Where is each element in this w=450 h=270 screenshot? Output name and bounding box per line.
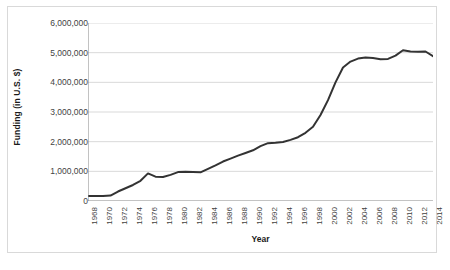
x-axis-tick-label: 1968 [91,207,99,225]
y-axis-tick-label: 5,000,000 [32,48,88,58]
x-axis-tick-label: 1986 [226,207,234,225]
x-axis-tick-label: 2014 [436,207,444,225]
x-axis-tick-label: 2006 [376,207,384,225]
x-axis-tick-label: 1990 [256,207,264,225]
x-axis-tick-label: 1978 [166,207,174,225]
x-axis-tick-label: 1972 [121,207,129,225]
x-axis-tick-labels: 1968197019721974197619781980198219841986… [88,201,433,235]
series-line-funding [88,50,433,196]
x-axis-tick-label: 1992 [271,207,279,225]
y-axis-tick-label: 0 [32,196,88,206]
x-axis-tick-label: 1970 [106,207,114,225]
x-axis-tick-label: 2010 [406,207,414,225]
y-axis-tick-label: 6,000,000 [32,18,88,28]
x-axis-tick-label: 2002 [346,207,354,225]
chart-figure: Funding (in U.S. $) 01,000,0002,000,0003… [7,6,437,253]
y-axis-tick-label: 1,000,000 [32,166,88,176]
y-axis-title: Funding (in U.S. $) [8,7,26,207]
y-axis-title-label: Funding (in U.S. $) [12,69,22,146]
y-axis-tick-label: 2,000,000 [32,137,88,147]
x-axis-tick-label: 1976 [151,207,159,225]
y-axis-tick-labels: 01,000,0002,000,0003,000,0004,000,0005,0… [26,7,88,227]
x-axis-tick-label: 1984 [211,207,219,225]
x-axis-tick-label: 1980 [181,207,189,225]
x-axis-tick-label: 1982 [196,207,204,225]
x-axis-tick-label: 1994 [286,207,294,225]
x-axis-tick-label: 1974 [136,207,144,225]
x-axis-tick-label: 2008 [391,207,399,225]
x-axis-title: Year [88,234,433,244]
x-axis-tick-label: 1998 [316,207,324,225]
y-axis-tick-label: 4,000,000 [32,77,88,87]
y-axis-tick-label: 3,000,000 [32,107,88,117]
gridlines [88,23,433,171]
line-chart-svg [88,23,433,201]
x-axis-tick-label: 1996 [301,207,309,225]
x-axis-tick-label: 2000 [331,207,339,225]
x-axis-tick-label: 1988 [241,207,249,225]
x-axis-tick-label: 2012 [421,207,429,225]
plot-area [88,23,433,201]
x-axis-tick-label: 2004 [361,207,369,225]
